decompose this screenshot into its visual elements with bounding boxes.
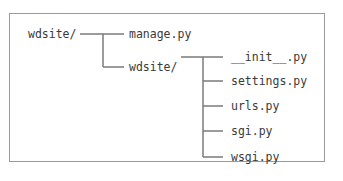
file-init-py: __init__.py	[231, 50, 307, 64]
subfolder-wdsite: wdsite/	[129, 60, 177, 74]
file-manage-py: manage.py	[129, 27, 191, 41]
file-wsgi-py: wsgi.py	[231, 150, 279, 164]
file-settings-py: settings.py	[231, 74, 307, 88]
file-sgi-py: sgi.py	[231, 124, 273, 138]
root-folder: wdsite/	[28, 27, 76, 41]
file-urls-py: urls.py	[231, 99, 279, 113]
